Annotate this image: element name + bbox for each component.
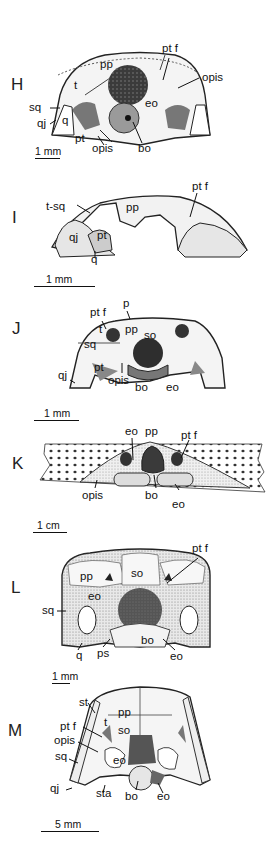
label-q: q — [76, 650, 82, 661]
label-pp: pp — [118, 707, 131, 718]
skull-drawing-k — [0, 420, 276, 520]
label-pt-f: pt f — [192, 181, 208, 192]
panel-letter-i: I — [12, 208, 17, 228]
panel-i: I pp pt f t-sq qj pt q 1 mm — [0, 165, 276, 275]
scale-bar-m: 5 mm — [41, 819, 99, 832]
label-eo: eo — [125, 426, 138, 437]
label-pt-f: pt f — [192, 543, 208, 554]
skull-drawing-l — [0, 535, 276, 665]
label-t-sq: t-sq — [46, 201, 65, 212]
label-pt-f: pt f — [90, 307, 106, 318]
label-p: p — [123, 298, 129, 309]
label-bo: bo — [135, 382, 148, 393]
skull-drawing-i — [0, 165, 276, 275]
label-eo-lower: eo — [157, 791, 170, 802]
panel-k: K eo pp pt f opis bo eo 1 cm — [0, 420, 276, 520]
label-so: so — [131, 568, 143, 579]
label-sq: sq — [42, 605, 54, 616]
label-eo: eo — [166, 382, 179, 393]
panel-l: L so pt f pp eo sq q ps bo eo 1 mm — [0, 535, 276, 665]
label-so: so — [144, 330, 156, 341]
label-pt: pt — [94, 362, 104, 373]
label-t: t — [74, 80, 77, 91]
label-qj: qj — [37, 118, 46, 129]
label-eo-lower: eo — [170, 651, 183, 662]
panel-letter-k: K — [12, 454, 23, 474]
panel-letter-l: L — [11, 578, 20, 598]
panel-j: J pt f p t pp so sq qj pt opis bo eo 1 m… — [0, 283, 276, 408]
panel-m: M st pp t pt f so opis sq eo qj sta bo e… — [0, 685, 276, 868]
panel-letter-h: H — [11, 75, 23, 95]
label-pp: pp — [100, 59, 113, 70]
label-pp: pp — [145, 426, 158, 437]
label-t: t — [104, 717, 107, 728]
label-pt: pt — [75, 133, 85, 144]
label-pt-f: pt f — [181, 430, 197, 441]
label-sq: sq — [29, 102, 41, 113]
label-bo: bo — [145, 490, 158, 501]
panel-letter-j: J — [12, 319, 21, 339]
label-sta: sta — [96, 788, 111, 799]
scale-bar-h: 1 mm — [35, 146, 60, 159]
label-pp: pp — [80, 571, 93, 582]
label-opis: opis — [202, 72, 223, 83]
label-bo: bo — [141, 635, 154, 646]
label-pp: pp — [125, 324, 138, 335]
panel-h: H pp pt f opis t eo sq qj q pt opis bo 1… — [0, 0, 276, 165]
label-opis: opis — [54, 735, 75, 746]
label-opis: opis — [108, 375, 129, 386]
label-t: t — [99, 324, 102, 335]
label-bo: bo — [125, 791, 138, 802]
label-st: st — [79, 697, 88, 708]
label-opis-lower: opis — [92, 143, 113, 154]
label-pt-f: pt f — [60, 721, 76, 732]
label-qj: qj — [69, 232, 78, 243]
skull-drawing-m — [0, 685, 276, 868]
label-pt-f: pt f — [162, 43, 178, 54]
label-q: q — [62, 115, 68, 126]
label-pt: pt — [97, 230, 107, 241]
label-eo: eo — [113, 755, 126, 766]
skull-drawing-h — [0, 0, 276, 165]
label-eo-lower: eo — [172, 499, 185, 510]
label-eo: eo — [145, 98, 158, 109]
label-eo: eo — [88, 591, 101, 602]
scale-bar-l: 1 mm — [52, 671, 70, 684]
label-so: so — [118, 725, 130, 736]
label-qj: qj — [58, 370, 67, 381]
label-pp: pp — [126, 202, 139, 213]
label-q: q — [91, 254, 97, 265]
label-sq: sq — [84, 339, 96, 350]
label-qj: qj — [50, 783, 59, 794]
panel-letter-m: M — [8, 721, 22, 741]
label-bo: bo — [138, 143, 151, 154]
scale-bar-k: 1 cm — [33, 520, 67, 533]
label-sq: sq — [55, 751, 67, 762]
label-ps: ps — [97, 648, 109, 659]
label-opis: opis — [82, 490, 103, 501]
